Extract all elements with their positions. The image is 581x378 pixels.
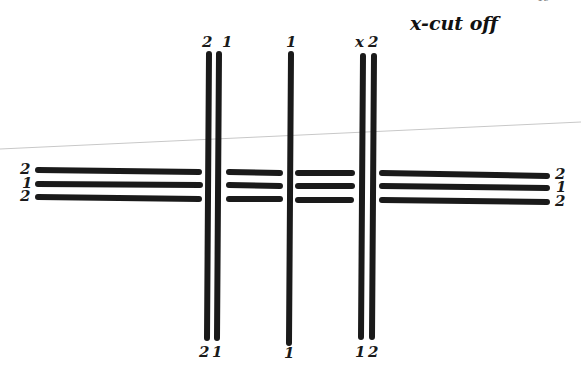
bottom-label-v5: 2: [368, 345, 378, 360]
top-label-v3: 1: [286, 35, 296, 50]
horizontal-bar-right-3: [382, 200, 547, 202]
vertical-bar-1: [207, 54, 209, 338]
horizontal-bar-left-3: [38, 197, 199, 199]
vertical-bar-2: [217, 54, 219, 338]
weaving-diagram: 2 1 1 x 2 2 1 1 1 2 2 1 2 2 1 2 x-cut of…: [0, 0, 581, 378]
horizontal-bar-left-2: [38, 184, 200, 185]
page-mark: 19: [537, 0, 550, 3]
top-label-v5: 2: [368, 35, 378, 50]
bottom-label-v3: 1: [284, 346, 294, 361]
bottom-label-v1: 2: [199, 345, 209, 360]
left-horizontal-group: [38, 170, 200, 199]
vertical-bar-5: [372, 56, 374, 337]
horizontal-bar-left-1: [38, 170, 199, 172]
diagram-title: x-cut off: [410, 12, 498, 34]
vertical-bar-4: [361, 56, 363, 337]
bottom-label-v4: 1: [355, 345, 365, 360]
top-label-v2: 1: [222, 35, 232, 50]
middle-horizontal-group-2: [298, 173, 352, 200]
horizontal-bar-right-1: [382, 173, 547, 176]
thread-diagram-svg: [0, 0, 581, 378]
horizontal-bar-mid1-1: [229, 172, 280, 173]
top-label-v4: x: [355, 35, 364, 50]
right-label-3: 2: [555, 194, 565, 209]
horizontal-bar-right-2: [382, 186, 547, 188]
horizontal-bar-mid1-2: [229, 185, 280, 186]
right-horizontal-group: [382, 173, 547, 202]
vertical-bar-3: [289, 54, 291, 343]
top-label-v1: 2: [202, 35, 212, 50]
bottom-label-v2: 1: [212, 345, 222, 360]
left-label-3: 2: [20, 189, 30, 204]
middle-horizontal-group-1: [229, 172, 280, 199]
